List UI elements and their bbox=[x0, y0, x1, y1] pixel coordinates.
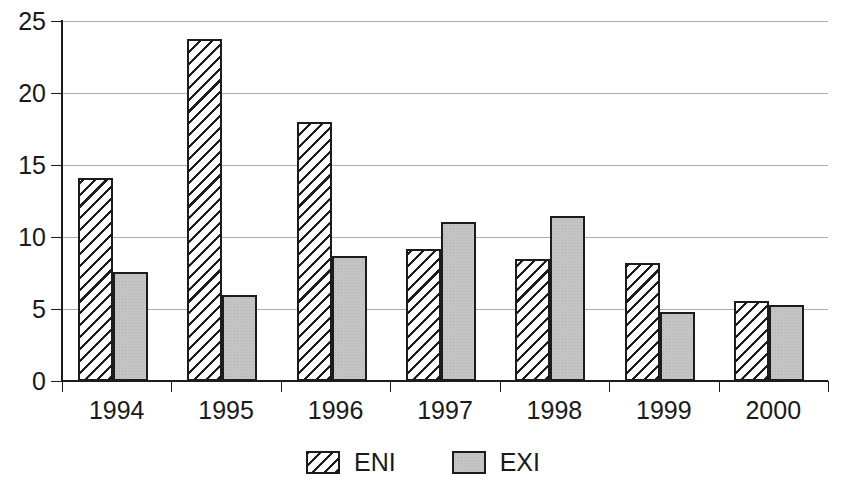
bar-chart: 0510152025 1994199519961997199819992000 … bbox=[0, 0, 846, 486]
y-axis-tick-label: 20 bbox=[0, 81, 46, 106]
y-axis-tick bbox=[51, 381, 61, 382]
bar-eni-1998 bbox=[515, 259, 550, 381]
plot-area bbox=[62, 21, 828, 381]
x-axis-tick bbox=[390, 381, 391, 392]
x-axis-tick bbox=[171, 381, 172, 392]
bar-eni-1999 bbox=[625, 263, 660, 381]
bar-eni-1996 bbox=[297, 122, 332, 381]
legend-swatch-eni bbox=[306, 451, 340, 474]
y-axis-tick-label: 25 bbox=[0, 9, 46, 34]
bar-exi-1995 bbox=[222, 295, 257, 381]
bar-eni-1997 bbox=[406, 249, 441, 381]
y-axis-tick-label: 5 bbox=[0, 297, 46, 322]
y-axis-line bbox=[61, 20, 63, 382]
bar-eni-1994 bbox=[78, 178, 113, 381]
x-axis-tick bbox=[62, 381, 63, 392]
gridline bbox=[62, 21, 828, 22]
x-axis-tick-label: 1995 bbox=[171, 398, 280, 423]
chart-legend: ENIEXI bbox=[0, 450, 846, 475]
bar-exi-1994 bbox=[113, 272, 148, 381]
y-axis-tick bbox=[51, 165, 61, 166]
x-axis-tick-label: 1994 bbox=[62, 398, 171, 423]
bar-exi-2000 bbox=[769, 305, 804, 381]
legend-label-eni: ENI bbox=[354, 450, 396, 475]
bar-eni-2000 bbox=[734, 301, 769, 381]
gridline bbox=[62, 165, 828, 166]
x-axis-tick bbox=[828, 381, 829, 392]
x-axis-tick-label: 1997 bbox=[390, 398, 499, 423]
y-axis-tick bbox=[51, 309, 61, 310]
x-axis-tick-label: 2000 bbox=[719, 398, 828, 423]
bar-exi-1997 bbox=[441, 222, 476, 381]
gridline bbox=[62, 93, 828, 94]
y-axis-tick bbox=[51, 237, 61, 238]
y-axis-tick bbox=[51, 21, 61, 22]
legend-item-eni: ENI bbox=[306, 450, 396, 475]
x-axis-tick bbox=[609, 381, 610, 392]
bar-exi-1998 bbox=[550, 216, 585, 381]
x-axis-tick-label: 1996 bbox=[281, 398, 390, 423]
bar-exi-1996 bbox=[332, 256, 367, 381]
x-axis-tick-label: 1998 bbox=[500, 398, 609, 423]
legend-label-exi: EXI bbox=[500, 450, 540, 475]
y-axis-tick-label: 15 bbox=[0, 153, 46, 178]
bar-exi-1999 bbox=[660, 312, 695, 381]
bar-eni-1995 bbox=[187, 39, 222, 381]
x-axis-tick bbox=[719, 381, 720, 392]
x-axis-tick bbox=[500, 381, 501, 392]
x-axis-tick-label: 1999 bbox=[609, 398, 718, 423]
y-axis-tick-label: 10 bbox=[0, 225, 46, 250]
y-axis-tick bbox=[51, 93, 61, 94]
legend-swatch-exi bbox=[452, 451, 486, 474]
x-axis-tick bbox=[281, 381, 282, 392]
legend-item-exi: EXI bbox=[452, 450, 540, 475]
y-axis-tick-label: 0 bbox=[0, 369, 46, 394]
